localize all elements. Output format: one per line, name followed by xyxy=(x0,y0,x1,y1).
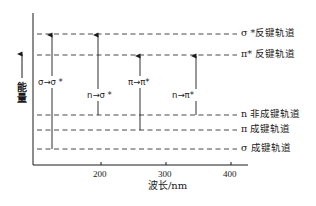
transition-label: n→π* xyxy=(172,90,194,100)
y-axis-label: 能量 xyxy=(16,82,28,104)
x-axis-label: 波长/nm xyxy=(148,181,187,191)
orbital-label-n: n 非成键轨道 xyxy=(241,109,300,119)
transition-label: n→σ * xyxy=(87,90,112,100)
orbital-label-sigma: σ 成键轨道 xyxy=(241,143,291,153)
x-tick-label: 400 xyxy=(223,169,237,179)
transition-label: σ→σ * xyxy=(38,77,63,87)
orbital-levels xyxy=(37,34,237,149)
x-tick-label: 200 xyxy=(93,169,107,179)
transition-label: π→π* xyxy=(128,77,150,87)
orbital-label-pi: π 成键轨道 xyxy=(241,124,290,134)
orbital-label-sigma_star: σ *反键轨道 xyxy=(241,28,295,38)
orbital-label-pi_star: π* 反键轨道 xyxy=(241,49,295,59)
x-tick-label: 300 xyxy=(158,169,172,179)
